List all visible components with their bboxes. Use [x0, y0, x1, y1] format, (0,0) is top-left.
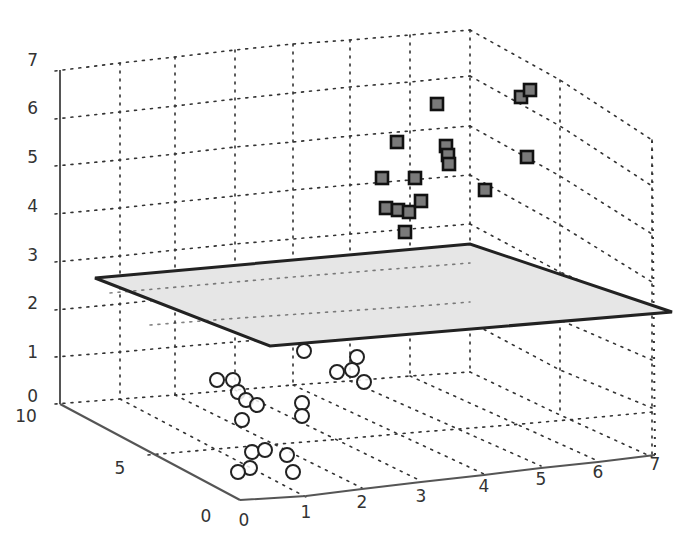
square-marker [409, 172, 421, 184]
tick-label: 10 [15, 406, 37, 426]
tick-label: 6 [593, 462, 604, 482]
tick-label: 2 [357, 492, 368, 512]
square-marker [403, 206, 415, 218]
tick-label: 2 [27, 293, 38, 313]
z-axis-tick-labels: 76543210 [27, 50, 38, 406]
tick-label: 5 [536, 469, 547, 489]
circle-marker [231, 465, 245, 479]
square-marker [524, 84, 536, 96]
tick-label: 0 [27, 386, 38, 406]
tick-label: 4 [27, 196, 38, 216]
square-marker [376, 172, 388, 184]
circle-marker [297, 344, 311, 358]
circle-marker [210, 373, 224, 387]
lower-class-markers [210, 323, 371, 479]
circle-marker [250, 398, 264, 412]
circle-marker [286, 465, 300, 479]
tick-label: 1 [27, 342, 38, 362]
circle-marker [295, 396, 309, 410]
circle-marker [345, 363, 359, 377]
circle-marker [357, 375, 371, 389]
circle-marker [350, 350, 364, 364]
right-wall-grid [470, 30, 652, 457]
upper-class-markers [376, 84, 536, 238]
square-marker [521, 151, 533, 163]
circle-marker [235, 413, 249, 427]
tick-label: 3 [27, 245, 38, 265]
circle-marker [295, 409, 309, 423]
tick-label: 1 [301, 502, 312, 522]
circle-marker [330, 365, 344, 379]
x-axis-tick-labels: 01234567 [239, 454, 661, 530]
tick-label: 5 [27, 147, 38, 167]
square-marker [415, 195, 427, 207]
tick-label: 6 [27, 98, 38, 118]
tick-label: 4 [479, 476, 490, 496]
y-axis-tick-labels: 1050 [15, 406, 211, 526]
tick-label: 7 [27, 50, 38, 70]
tick-label: 0 [201, 506, 212, 526]
square-marker [443, 158, 455, 170]
tick-label: 5 [115, 458, 126, 478]
square-marker [431, 98, 443, 110]
circle-marker [258, 443, 272, 457]
3d-scatter-chart: 76543210 1050 01234567 [0, 0, 684, 548]
tick-label: 0 [239, 510, 250, 530]
y-axis [60, 404, 240, 500]
square-marker [479, 184, 491, 196]
circle-marker [245, 445, 259, 459]
tick-label: 7 [650, 454, 661, 474]
square-marker [380, 202, 392, 214]
square-marker [391, 136, 403, 148]
tick-label: 3 [416, 486, 427, 506]
circle-marker [280, 448, 294, 462]
square-marker [399, 226, 411, 238]
